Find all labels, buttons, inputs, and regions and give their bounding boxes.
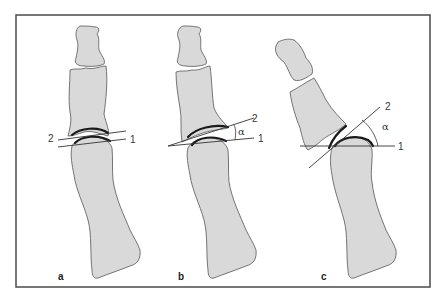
- panel-c: α 2 1 c: [275, 39, 404, 282]
- angle-arc: [234, 125, 236, 140]
- distal-phalanx: [275, 39, 312, 80]
- middle-phalanx: [68, 66, 109, 136]
- panel-a-label: a: [58, 271, 64, 282]
- distal-phalanx: [75, 26, 104, 66]
- middle-phalanx: [176, 66, 228, 142]
- proximal-bone: [71, 137, 140, 278]
- line-2-label: 2: [252, 113, 258, 124]
- line-1-label: 1: [130, 134, 136, 145]
- line-1-label: 1: [398, 141, 404, 152]
- joint-angle-diagram: 2 1 a α 2 1 b α 2 1 c: [0, 0, 442, 304]
- panel-b-label: b: [178, 271, 184, 282]
- proximal-bone: [331, 137, 397, 278]
- angle-alpha-label: α: [238, 126, 245, 137]
- line-1-label: 1: [258, 133, 264, 144]
- angle-alpha-label: α: [382, 121, 389, 132]
- panel-c-label: c: [321, 271, 327, 282]
- line-2-label: 2: [385, 101, 391, 112]
- proximal-bone: [187, 138, 256, 278]
- panel-b: α 2 1 b: [168, 26, 264, 282]
- middle-phalanx: [290, 78, 346, 150]
- distal-phalanx: [177, 26, 206, 66]
- line-2-label: 2: [48, 133, 54, 144]
- panel-a: 2 1 a: [48, 26, 140, 282]
